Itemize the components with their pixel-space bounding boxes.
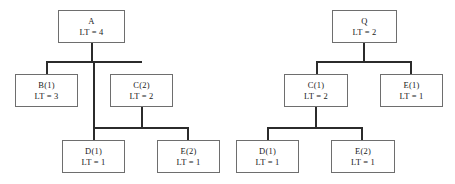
tree-node-a: ALT = 4 xyxy=(58,10,125,43)
tree-edge-drop xyxy=(267,127,269,141)
tree-node-name: E(2) xyxy=(355,146,371,156)
tree-edge-stem xyxy=(363,43,365,63)
tree-node-lt-label: LT = 1 xyxy=(400,91,424,101)
tree-node-name: D(1) xyxy=(85,146,102,156)
tree-edge-drop xyxy=(93,127,95,141)
tree-edge-bar xyxy=(93,127,189,129)
tree-edge-drop xyxy=(46,61,48,75)
tree-node-lt-label: LT = 1 xyxy=(82,157,106,167)
tree-node-name: E(1) xyxy=(404,80,420,90)
tree-diagram-canvas: ALT = 4B(1)LT = 3C(2)LT = 2D(1)LT = 1E(2… xyxy=(0,0,455,184)
tree-edge-drop xyxy=(361,127,363,141)
tree-node-lt-label: LT = 1 xyxy=(256,157,280,167)
tree-node-name: B(1) xyxy=(38,80,54,90)
tree-edge-stem xyxy=(141,107,143,129)
tree-edge-stem xyxy=(91,43,93,63)
tree-node-e2r: E(2)LT = 1 xyxy=(331,140,395,173)
tree-node-name: Q xyxy=(361,16,367,26)
tree-node-name: E(2) xyxy=(181,146,197,156)
tree-edge-drop xyxy=(187,127,189,141)
tree-node-e1: E(1)LT = 1 xyxy=(380,74,443,107)
tree-node-lt-label: LT = 1 xyxy=(177,157,201,167)
tree-node-b1: B(1)LT = 3 xyxy=(15,74,78,107)
tree-node-name: C(1) xyxy=(308,80,324,90)
tree-edge-bar xyxy=(267,127,363,129)
tree-node-lt-label: LT = 2 xyxy=(353,27,377,37)
tree-node-name: A xyxy=(88,16,94,26)
tree-node-d1r: D(1)LT = 1 xyxy=(236,140,299,173)
tree-node-lt-label: LT = 3 xyxy=(35,91,59,101)
tree-edge-drop xyxy=(410,61,412,75)
tree-node-lt-label: LT = 4 xyxy=(80,27,104,37)
tree-node-lt-label: LT = 2 xyxy=(130,91,154,101)
tree-node-name: D(1) xyxy=(259,146,276,156)
tree-node-lt-label: LT = 1 xyxy=(351,157,375,167)
tree-node-name: C(2) xyxy=(133,80,149,90)
tree-edge-bar xyxy=(316,61,412,63)
tree-node-q: QLT = 2 xyxy=(332,10,397,43)
tree-edge-stem xyxy=(315,107,317,129)
tree-node-d1: D(1)LT = 1 xyxy=(62,140,125,173)
tree-node-c2: C(2)LT = 2 xyxy=(110,74,173,107)
tree-node-lt-label: LT = 2 xyxy=(304,91,328,101)
tree-edge-drop xyxy=(316,61,318,75)
tree-node-e2: E(2)LT = 1 xyxy=(157,140,220,173)
tree-node-c1: C(1)LT = 2 xyxy=(284,74,348,107)
